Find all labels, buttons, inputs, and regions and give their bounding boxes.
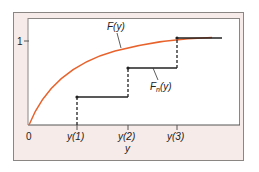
step-point-1 xyxy=(75,95,78,98)
x-tick-label-y1: y(1) xyxy=(66,131,84,142)
x-tick-label-0: 0 xyxy=(26,131,32,142)
step-label-leader xyxy=(153,68,158,80)
y-tick-label-1: 1 xyxy=(17,36,23,47)
x-tick-label-y3: y(3) xyxy=(166,131,184,142)
step-point-2 xyxy=(126,66,129,69)
step-label: Fn(y) xyxy=(150,81,172,93)
x-tick-label-y2: y(2) xyxy=(117,131,135,142)
curve-label-leader xyxy=(117,33,121,48)
cdf-curve xyxy=(29,38,212,126)
x-axis-label: y xyxy=(124,143,131,154)
curve-label: F(y) xyxy=(107,21,125,32)
chart-svg: 1 0 y(1) y(2) y(3) y F(y) Fn(y) xyxy=(0,0,259,172)
step-point-3 xyxy=(175,36,178,39)
